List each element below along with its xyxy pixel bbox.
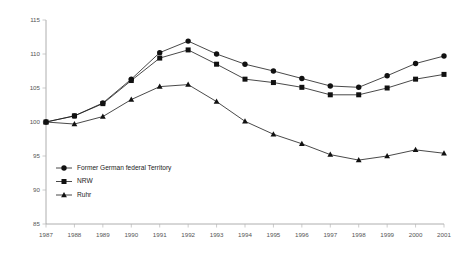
y-tick-label: 95 bbox=[33, 152, 40, 159]
data-point-circle bbox=[185, 38, 190, 43]
data-point-square bbox=[129, 78, 134, 83]
data-point-circle bbox=[299, 76, 304, 81]
data-point-circle bbox=[242, 61, 247, 66]
data-point-triangle bbox=[242, 118, 248, 123]
chart-container: 8590951001051101151987198819891990199119… bbox=[0, 0, 453, 258]
data-point-circle bbox=[356, 85, 361, 90]
legend-marker-triangle bbox=[61, 192, 67, 197]
x-tick-label: 1990 bbox=[124, 231, 138, 238]
data-point-circle bbox=[271, 68, 276, 73]
x-tick-label: 1989 bbox=[96, 231, 110, 238]
y-tick-label: 115 bbox=[30, 16, 40, 23]
data-point-square bbox=[72, 113, 77, 118]
data-point-circle bbox=[441, 53, 446, 58]
data-point-triangle bbox=[100, 113, 106, 118]
x-tick-label: 1993 bbox=[210, 231, 224, 238]
x-tick-label: 2000 bbox=[409, 231, 423, 238]
y-tick-label: 100 bbox=[30, 118, 41, 125]
x-tick-label: 1987 bbox=[39, 231, 53, 238]
data-point-square bbox=[243, 77, 248, 82]
x-tick-label: 1999 bbox=[380, 231, 394, 238]
data-point-triangle bbox=[214, 99, 220, 104]
data-point-circle bbox=[413, 61, 418, 66]
x-tick-label: 1998 bbox=[352, 231, 366, 238]
legend-marker-square bbox=[62, 179, 67, 184]
data-point-square bbox=[442, 72, 447, 77]
data-point-square bbox=[100, 101, 105, 106]
data-point-circle bbox=[384, 73, 389, 78]
data-point-square bbox=[299, 85, 304, 90]
x-tick-label: 1997 bbox=[323, 231, 337, 238]
x-tick-label: 1995 bbox=[267, 231, 281, 238]
x-tick-label: 1994 bbox=[238, 231, 252, 238]
data-point-square bbox=[328, 92, 333, 97]
data-point-circle bbox=[328, 83, 333, 88]
data-point-square bbox=[413, 77, 418, 82]
data-point-circle bbox=[214, 51, 219, 56]
legend-label: Ruhr bbox=[77, 191, 92, 198]
data-point-circle bbox=[157, 50, 162, 55]
x-tick-label: 1991 bbox=[153, 231, 167, 238]
data-point-triangle bbox=[128, 96, 134, 101]
data-point-triangle bbox=[185, 82, 191, 87]
y-tick-label: 105 bbox=[30, 84, 41, 91]
data-point-square bbox=[385, 86, 390, 91]
data-point-square bbox=[271, 80, 276, 85]
data-point-square bbox=[214, 62, 219, 67]
data-point-triangle bbox=[413, 147, 419, 152]
x-tick-label: 1992 bbox=[181, 231, 195, 238]
legend-marker-circle bbox=[61, 165, 66, 170]
x-tick-label: 2001 bbox=[437, 231, 451, 238]
data-point-square bbox=[157, 56, 162, 61]
series-line-square bbox=[46, 50, 444, 122]
y-tick-label: 85 bbox=[33, 220, 40, 227]
data-point-triangle bbox=[271, 131, 277, 136]
legend-label: NRW bbox=[77, 177, 93, 184]
data-point-square bbox=[186, 47, 191, 52]
line-chart: 8590951001051101151987198819891990199119… bbox=[0, 0, 453, 258]
data-point-square bbox=[356, 92, 361, 97]
x-tick-label: 1996 bbox=[295, 231, 309, 238]
x-tick-label: 1988 bbox=[68, 231, 82, 238]
y-tick-label: 110 bbox=[30, 50, 40, 57]
legend-label: Former German federal Territory bbox=[77, 164, 172, 172]
y-tick-label: 90 bbox=[33, 186, 40, 193]
